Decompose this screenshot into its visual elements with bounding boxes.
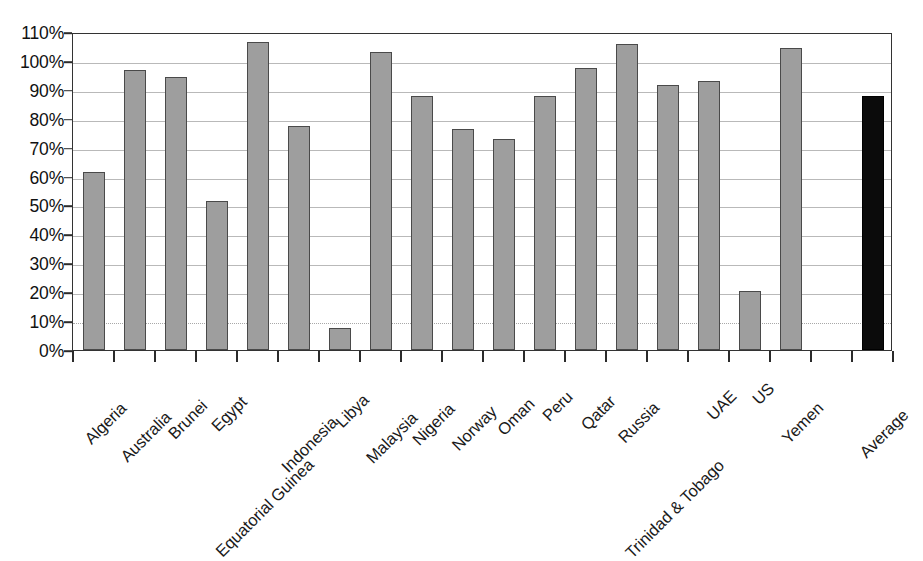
x-tick-mark [687, 351, 689, 362]
bar [288, 126, 310, 350]
x-tick-mark [851, 351, 853, 362]
y-tick-mark [64, 177, 72, 179]
bar [83, 172, 105, 350]
bar [206, 201, 228, 350]
y-tick-label: 40% [2, 225, 64, 246]
y-tick-label: 20% [2, 283, 64, 304]
bar [739, 291, 761, 350]
y-tick-mark [64, 206, 72, 208]
x-tick-mark [441, 351, 443, 362]
x-tick-mark [810, 351, 812, 362]
y-tick-mark [64, 292, 72, 294]
bar [247, 42, 269, 350]
x-tick-label: Algeria [81, 399, 130, 448]
y-tick-mark [64, 148, 72, 150]
x-tick-mark [154, 351, 156, 362]
x-tick-mark [113, 351, 115, 362]
x-tick-mark [318, 351, 320, 362]
y-tick-label: 100% [2, 51, 64, 72]
y-tick-mark [64, 90, 72, 92]
x-tick-label: UAE [703, 387, 740, 424]
x-tick-mark [359, 351, 361, 362]
x-tick-mark [72, 351, 74, 362]
y-tick-label: 10% [2, 312, 64, 333]
bar [862, 96, 884, 350]
y-tick-label: 0% [2, 341, 64, 362]
x-tick-label: Equatorial Guinea [211, 455, 317, 561]
x-tick-label: Oman [493, 394, 538, 439]
bar [698, 81, 720, 350]
x-axis-ticks [72, 351, 892, 363]
bar [370, 52, 392, 350]
y-tick-mark [64, 119, 72, 121]
y-tick-mark [64, 235, 72, 237]
bar [452, 129, 474, 350]
bar [616, 44, 638, 350]
x-tick-mark [236, 351, 238, 362]
y-tick-label: 60% [2, 167, 64, 188]
y-tick-label: 90% [2, 80, 64, 101]
x-tick-label: Average [855, 406, 911, 462]
x-tick-mark [523, 351, 525, 362]
x-tick-label: US [748, 379, 778, 409]
bar [124, 70, 146, 350]
x-tick-label: Trinidad & Tobago [621, 456, 727, 561]
bar [780, 48, 802, 350]
x-tick-label: Qatar [577, 392, 619, 434]
x-tick-mark [482, 351, 484, 362]
x-tick-mark [892, 351, 894, 362]
bar [411, 96, 433, 350]
bar [165, 77, 187, 350]
y-tick-mark [64, 350, 72, 352]
y-tick-mark [64, 263, 72, 265]
x-tick-label: Russia [614, 398, 663, 447]
y-tick-label: 80% [2, 109, 64, 130]
y-tick-mark [64, 321, 72, 323]
y-tick-mark [64, 61, 72, 63]
bar [657, 85, 679, 350]
bar [534, 96, 556, 350]
y-tick-label: 30% [2, 254, 64, 275]
x-tick-mark [769, 351, 771, 362]
x-tick-mark [646, 351, 648, 362]
y-tick-label: 110% [2, 23, 64, 44]
y-tick-mark [64, 32, 72, 34]
bar [575, 68, 597, 350]
x-axis-labels: AlgeriaAustraliaBruneiEgyptEquatorial Gu… [72, 363, 923, 528]
x-tick-label: Egypt [207, 392, 250, 435]
y-tick-label: 70% [2, 138, 64, 159]
x-tick-mark [728, 351, 730, 362]
bar [329, 328, 351, 350]
x-tick-mark [400, 351, 402, 362]
plot-area [72, 33, 892, 351]
y-tick-label: 50% [2, 196, 64, 217]
x-tick-label: Yemen [778, 399, 827, 448]
x-tick-label: Peru [538, 387, 576, 425]
y-axis: 0%10%20%30%40%50%60%70%80%90%100%110% [0, 0, 64, 530]
bars-layer [73, 34, 891, 350]
x-tick-mark [195, 351, 197, 362]
x-tick-mark [564, 351, 566, 362]
bar [493, 139, 515, 350]
x-tick-mark [277, 351, 279, 362]
x-tick-mark [605, 351, 607, 362]
